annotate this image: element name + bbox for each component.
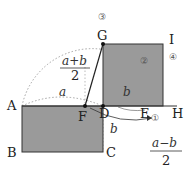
segment-gf xyxy=(85,44,103,106)
label-h: H xyxy=(172,106,183,121)
expr-a: a xyxy=(59,85,66,99)
label-c: C xyxy=(106,145,116,160)
label-d: D xyxy=(99,106,109,121)
expr-a-minus-b-denominator: 2 xyxy=(162,153,170,168)
point-f-dot xyxy=(83,104,87,108)
square-dghi xyxy=(103,44,163,106)
expr-a-plus-b-numerator: a+b xyxy=(62,54,87,68)
expr-a-minus-b-numerator: a−b xyxy=(152,136,177,150)
marker-1: ① xyxy=(151,113,159,123)
expr-b-side: b xyxy=(110,122,118,136)
label-e: E xyxy=(140,106,150,121)
marker-4: ④ xyxy=(169,52,177,62)
rectangle-abcd xyxy=(22,106,103,152)
label-a: A xyxy=(6,98,17,113)
expr-a-plus-b-denominator: 2 xyxy=(71,68,79,83)
label-f: F xyxy=(78,109,87,124)
marker-2: ② xyxy=(140,56,148,66)
label-i: I xyxy=(169,32,174,47)
geometry-diagram: A B C D E F G H I ① ② ③ ④ a+b 2 a b b a−… xyxy=(0,0,190,172)
label-g: G xyxy=(97,28,107,43)
expr-b-top: b xyxy=(123,85,131,99)
label-b: B xyxy=(7,145,17,160)
marker-3: ③ xyxy=(98,12,106,22)
